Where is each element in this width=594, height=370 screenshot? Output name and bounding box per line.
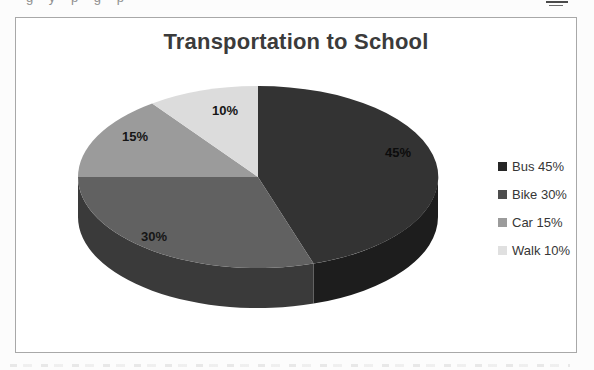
slice-label-bus: 45% bbox=[385, 145, 411, 160]
legend-label-bike: Bike 30% bbox=[512, 187, 567, 202]
legend-item-bus: Bus 45% bbox=[498, 160, 570, 173]
slice-label-car: 15% bbox=[122, 129, 148, 144]
legend-label-bus: Bus 45% bbox=[512, 159, 564, 174]
legend-item-bike: Bike 30% bbox=[498, 188, 570, 201]
chart-area: Transportation to School 45% 30% 15% 10%… bbox=[15, 17, 577, 353]
legend-item-walk: Walk 10% bbox=[498, 244, 570, 257]
legend-swatch-bike bbox=[498, 190, 507, 199]
pie-chart bbox=[16, 18, 578, 354]
legend: Bus 45% Bike 30% Car 15% Walk 10% bbox=[498, 160, 570, 257]
slice-label-walk: 10% bbox=[212, 103, 238, 118]
cropped-text-top-right bbox=[546, 1, 568, 6]
legend-swatch-bus bbox=[498, 162, 507, 171]
legend-swatch-car bbox=[498, 218, 507, 227]
cropped-text-top-fragment: g y p g p bbox=[26, 0, 456, 5]
legend-swatch-walk bbox=[498, 246, 507, 255]
slice-label-bike: 30% bbox=[141, 229, 167, 244]
legend-item-car: Car 15% bbox=[498, 216, 570, 229]
legend-label-car: Car 15% bbox=[512, 215, 563, 230]
legend-label-walk: Walk 10% bbox=[512, 243, 570, 258]
cropped-text-bottom bbox=[10, 364, 570, 367]
cropped-text-top: g y p g p bbox=[26, 0, 456, 6]
